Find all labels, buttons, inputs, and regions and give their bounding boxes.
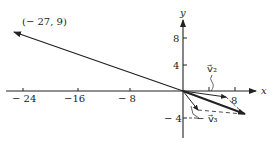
x-axis xyxy=(6,87,256,91)
y-tick-label: 4 xyxy=(173,60,179,71)
x-tick-label: − 8 xyxy=(118,93,136,104)
point-label: (− 27, 9) xyxy=(22,16,67,27)
x-tick-label: −16 xyxy=(64,93,85,104)
y-axis xyxy=(183,20,187,138)
v3-label: − v⃗₃ xyxy=(196,113,218,124)
y-tick-label: 8 xyxy=(173,33,179,44)
x-tick-label: − 24 xyxy=(12,93,36,104)
x-axis-label: x xyxy=(261,85,267,96)
vector-diagram: x − 24 −16 − 8 8 y 8 4 − 4 (− 27, 9) v⃗₂… xyxy=(0,0,274,142)
y-axis-label: y xyxy=(179,7,186,18)
y-tick-label: − 4 xyxy=(164,113,182,124)
v2-label: v⃗₂ xyxy=(207,63,217,74)
vector-v1 xyxy=(14,32,183,91)
v2-leader xyxy=(211,75,214,91)
